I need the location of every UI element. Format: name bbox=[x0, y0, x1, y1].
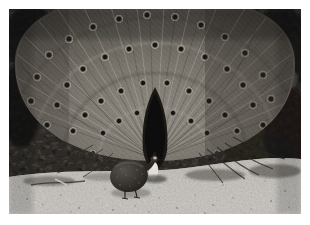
film-grain bbox=[9, 9, 301, 214]
photograph-svg bbox=[9, 9, 301, 214]
photograph-frame bbox=[0, 0, 310, 225]
photograph-image bbox=[9, 9, 301, 214]
